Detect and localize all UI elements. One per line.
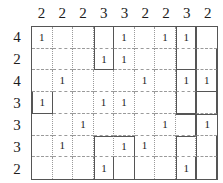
grid-cell-r5c3[interactable]: 1: [73, 114, 94, 136]
grid-cell-r3c5[interactable]: [114, 70, 135, 92]
grid-cell-r4c7[interactable]: [155, 92, 176, 114]
puzzle-grid: 111111111111111111111: [31, 26, 218, 180]
grid-cell-r2c2[interactable]: [53, 49, 74, 71]
cell-value: 1: [204, 75, 210, 86]
grid-cell-r4c1[interactable]: 1: [32, 92, 53, 114]
grid-cell-r4c6[interactable]: [135, 92, 156, 114]
cell-value: 1: [142, 140, 148, 151]
cell-value: 1: [101, 54, 107, 65]
row-clue-1: 4: [6, 26, 28, 48]
column-clue-1: 2: [31, 2, 52, 24]
grid-cell-r6c8[interactable]: [176, 136, 197, 158]
column-clue-8: 3: [176, 2, 197, 24]
puzzle-container: 222332232 4243332 111111111111111111111: [0, 0, 223, 183]
cell-value: 1: [162, 119, 168, 130]
grid-cell-r6c6[interactable]: 1: [135, 136, 156, 158]
grid-cell-r1c2[interactable]: [53, 27, 74, 49]
cell-value: 1: [142, 75, 148, 86]
grid-cell-r6c2[interactable]: 1: [53, 136, 74, 158]
column-clue-3: 2: [73, 2, 94, 24]
grid-cell-r4c2[interactable]: [53, 92, 74, 114]
grid-cell-r1c6[interactable]: [135, 27, 156, 49]
grid-cell-r1c7[interactable]: 1: [155, 27, 176, 49]
grid-cell-r1c1[interactable]: 1: [32, 27, 53, 49]
grid-cell-r5c8[interactable]: [176, 114, 197, 136]
grid-cell-r2c5[interactable]: 1: [114, 49, 135, 71]
grid-cell-r5c5[interactable]: [114, 114, 135, 136]
grid-cell-r3c6[interactable]: 1: [135, 70, 156, 92]
grid-cell-r1c4[interactable]: [94, 27, 115, 49]
cell-value: 1: [204, 119, 210, 130]
cell-value: 1: [40, 97, 46, 108]
grid-cell-r1c5[interactable]: 1: [114, 27, 135, 49]
grid-cell-r7c7[interactable]: [155, 157, 176, 179]
grid-cell-r5c6[interactable]: [135, 114, 156, 136]
cell-value: 1: [60, 75, 66, 86]
grid-cell-r1c9[interactable]: [196, 27, 217, 49]
grid-cell-r7c3[interactable]: [73, 157, 94, 179]
grid-cell-r6c1[interactable]: [32, 136, 53, 158]
grid-cell-r2c8[interactable]: [176, 49, 197, 71]
grid-cell-r6c9[interactable]: [196, 136, 217, 158]
grid-cell-r6c7[interactable]: [155, 136, 176, 158]
cell-value: 1: [101, 163, 107, 174]
grid-cell-r3c1[interactable]: [32, 70, 53, 92]
row-clue-3: 4: [6, 70, 28, 92]
cell-value: 1: [183, 32, 189, 43]
grid-cell-r3c4[interactable]: [94, 70, 115, 92]
column-clue-7: 2: [156, 2, 177, 24]
grid-cell-r7c6[interactable]: [135, 157, 156, 179]
grid-cell-r7c9[interactable]: [196, 157, 217, 179]
grid-cell-r3c3[interactable]: [73, 70, 94, 92]
grid-cell-r6c4[interactable]: [94, 136, 115, 158]
row-clue-6: 3: [6, 136, 28, 158]
cell-value: 1: [39, 32, 45, 43]
cell-value: 1: [183, 75, 189, 86]
grid-cell-r5c1[interactable]: [32, 114, 53, 136]
row-clue-5: 3: [6, 114, 28, 136]
grid-cell-r7c4[interactable]: 1: [94, 157, 115, 179]
cell-value: 1: [101, 97, 107, 108]
cell-value: 1: [121, 54, 127, 65]
grid-cell-r6c3[interactable]: [73, 136, 94, 158]
cell-value: 1: [121, 32, 127, 43]
column-clue-4: 3: [93, 2, 114, 24]
cell-value: 1: [183, 163, 189, 174]
row-clues: 4243332: [6, 26, 28, 180]
row-clue-4: 3: [6, 92, 28, 114]
grid-cell-r4c5[interactable]: 1: [114, 92, 135, 114]
grid-cell-r1c8[interactable]: 1: [176, 27, 197, 49]
grid-cell-r2c9[interactable]: [196, 49, 217, 71]
grid-cell-r3c2[interactable]: 1: [53, 70, 74, 92]
column-clue-9: 2: [197, 2, 218, 24]
grid-cell-r7c5[interactable]: [114, 157, 135, 179]
row-clue-7: 2: [6, 158, 28, 180]
grid-cell-r6c5[interactable]: 1: [114, 136, 135, 158]
grid-cell-r4c8[interactable]: [176, 92, 197, 114]
grid-cell-r5c2[interactable]: [53, 114, 74, 136]
cell-value: 1: [121, 141, 127, 152]
grid-cell-r3c9[interactable]: 1: [196, 70, 217, 92]
cell-value: 1: [121, 97, 127, 108]
grid-cell-r7c1[interactable]: [32, 157, 53, 179]
grid-cell-r2c7[interactable]: [155, 49, 176, 71]
grid-cell-r5c7[interactable]: 1: [155, 114, 176, 136]
grid-cell-r1c3[interactable]: [73, 27, 94, 49]
cell-value: 1: [60, 140, 66, 151]
grid-cell-r4c3[interactable]: [73, 92, 94, 114]
row-clue-2: 2: [6, 48, 28, 70]
grid-cell-r7c8[interactable]: 1: [176, 157, 197, 179]
grid-cell-r2c6[interactable]: [135, 49, 156, 71]
grid-cell-r5c4[interactable]: [94, 114, 115, 136]
grid-cell-r5c9[interactable]: 1: [196, 114, 217, 136]
grid-cell-r2c4[interactable]: 1: [94, 49, 115, 71]
grid-cell-r4c4[interactable]: 1: [94, 92, 115, 114]
grid-cell-r3c7[interactable]: [155, 70, 176, 92]
column-clues: 222332232: [31, 2, 218, 24]
grid-cell-r2c3[interactable]: [73, 49, 94, 71]
grid-cell-r2c1[interactable]: [32, 49, 53, 71]
column-clue-6: 2: [135, 2, 156, 24]
grid-cell-r3c8[interactable]: 1: [176, 70, 197, 92]
grid-cell-r4c9[interactable]: [196, 92, 217, 114]
grid-cell-r7c2[interactable]: [53, 157, 74, 179]
